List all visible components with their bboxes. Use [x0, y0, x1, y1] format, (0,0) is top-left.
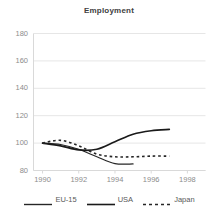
gridlines [34, 34, 206, 171]
legend-item-japan[interactable]: Japan [142, 195, 194, 204]
series-line-eu-15 [43, 143, 134, 164]
legend-label-japan: Japan [174, 195, 194, 204]
y-tick-label: 160 [2, 57, 28, 65]
legend-item-eu15[interactable]: EU-15 [23, 195, 76, 204]
legend-item-usa[interactable]: USA [86, 195, 133, 204]
x-tick-label: 1992 [62, 176, 96, 184]
y-tick-label: 100 [2, 139, 28, 147]
legend-label-eu15: EU-15 [55, 195, 76, 204]
data-series-layer [43, 129, 170, 164]
series-line-usa [43, 129, 170, 150]
x-tick-label: 1998 [170, 176, 204, 184]
chart-legend: EU-15 USA Japan [0, 190, 218, 208]
x-tick-label: 1990 [26, 176, 60, 184]
solid-line-swatch [86, 195, 116, 204]
x-tick-label: 1996 [134, 176, 168, 184]
employment-line-chart: Employment 80100120140160180 19901992199… [0, 0, 218, 213]
solid-line-swatch [23, 195, 53, 204]
x-tick-label: 1994 [98, 176, 132, 184]
y-tick-label: 120 [2, 112, 28, 120]
y-tick-label: 180 [2, 30, 28, 38]
y-tick-label: 140 [2, 84, 28, 92]
y-tick-label: 80 [2, 167, 28, 175]
dashed-line-swatch [142, 195, 172, 204]
axis-lines [34, 34, 206, 171]
legend-label-usa: USA [118, 195, 133, 204]
